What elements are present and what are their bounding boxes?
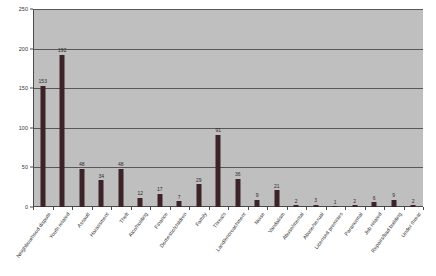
bar-value-label: 48 [79,161,85,167]
bar[interactable] [138,198,143,208]
bar-value-label: 21 [274,183,280,189]
x-axis-tick-mark [423,207,424,210]
bar-slot: 2 [404,9,424,207]
bar-value-label: 6 [373,195,376,201]
bar[interactable] [60,55,65,207]
bar-slot: 29 [189,9,209,207]
y-axis-tick-label: 150 [19,85,28,91]
bar-value-label: 2 [412,198,415,204]
x-axis-tick-mark [53,207,54,210]
bar-value-label: 48 [118,161,124,167]
x-axis-category-label: Alco/holding [127,211,149,238]
x-axis-tick-mark [404,207,405,210]
x-axis-category-label: Youth related [48,211,71,240]
x-axis-category-label: Family [194,211,208,227]
bar-slot: 153 [33,9,53,207]
bar[interactable] [196,184,201,207]
x-axis-category-label: Under threat [400,211,422,238]
bar-value-label: 2 [353,198,356,204]
bar[interactable] [391,200,396,207]
x-axis-tick-mark [228,207,229,210]
bar-value-label: 29 [196,177,202,183]
x-axis-category-label: Noise [253,211,266,225]
bar-value-label: 3 [314,197,317,203]
x-axis-tick-mark [306,207,307,210]
bar-slot: 1 [326,9,346,207]
y-axis-tick-label: 200 [19,46,28,52]
bar-value-label: 9 [392,192,395,198]
bar-slot: 2 [287,9,307,207]
bar-value-label: 91 [215,127,221,133]
bar-value-label: 36 [235,171,241,177]
bar[interactable] [216,135,221,207]
y-axis-tick-label: 50 [22,164,28,170]
bar[interactable] [79,169,84,207]
x-axis-tick-mark [111,207,112,210]
bar-value-label: 12 [137,190,143,196]
bar[interactable] [157,194,162,207]
x-axis-category-label: Theft [118,211,130,224]
bar-chart: 050100150200250 153192483448121772991369… [0,0,436,276]
bar-value-label: 7 [178,194,181,200]
bar-slot: 7 [170,9,190,207]
x-axis-tick-mark [150,207,151,210]
bar-slot: 34 [92,9,112,207]
x-axis-category-label: Neighbourhood dispute [15,211,52,259]
y-axis-tick-label: 250 [19,6,28,12]
x-axis-category-label: Threats [212,211,227,229]
x-axis-tick-mark [287,207,288,210]
bar-value-label: 2 [295,198,298,204]
bar-slot: 9 [248,9,268,207]
bar-value-label: 153 [39,78,48,84]
x-axis-tick-mark [248,207,249,210]
x-axis-tick-mark [72,207,73,210]
y-axis-tick-label: 0 [25,204,28,210]
x-axis-tick-mark [131,207,132,210]
bar-slot: 48 [111,9,131,207]
x-axis-labels: Neighbourhood disputeYouth relatedAssaul… [33,211,423,276]
bar-slot: 17 [150,9,170,207]
x-axis-category-label: Job related [363,211,383,236]
x-axis-tick-mark [365,207,366,210]
x-axis-category-label: Finance [153,211,169,230]
bar-value-label: 34 [98,173,104,179]
x-axis-category-label: Harassment [89,211,111,238]
bar-slot: 3 [306,9,326,207]
bar-value-label: 9 [256,192,259,198]
bar-slot: 48 [72,9,92,207]
bar-value-label: 1 [334,199,337,205]
x-axis-tick-mark [189,207,190,210]
x-axis-tick-mark [384,207,385,210]
bar-slot: 36 [228,9,248,207]
bars-layer: 153192483448121772991369212312692 [33,9,423,207]
bar-slot: 12 [131,9,151,207]
x-axis-category-label: Vandalism [266,211,285,234]
bar[interactable] [255,200,260,207]
bar-slot: 192 [53,9,73,207]
x-axis-category-label: Paranormal [343,211,364,237]
bar-value-label: 192 [58,47,67,53]
x-axis-tick-mark [92,207,93,210]
bar[interactable] [235,179,240,208]
bar[interactable] [40,86,45,207]
bar-slot: 91 [209,9,229,207]
bar[interactable] [99,180,104,207]
bar-slot: 6 [365,9,385,207]
x-axis-category-label: Assault [76,211,91,229]
x-axis-tick-mark [345,207,346,210]
bar[interactable] [274,190,279,207]
x-axis-tick-mark [170,207,171,210]
bar[interactable] [118,169,123,207]
bar-value-label: 17 [157,186,163,192]
x-axis-tick-mark [267,207,268,210]
y-axis: 050100150200250 [0,0,33,216]
bar-slot: 21 [267,9,287,207]
x-axis-tick-mark [326,207,327,210]
x-axis-tick-mark [209,207,210,210]
bar-slot: 9 [384,9,404,207]
x-axis-tick-mark [33,207,34,210]
y-axis-tick-label: 100 [19,125,28,131]
bar-slot: 2 [345,9,365,207]
